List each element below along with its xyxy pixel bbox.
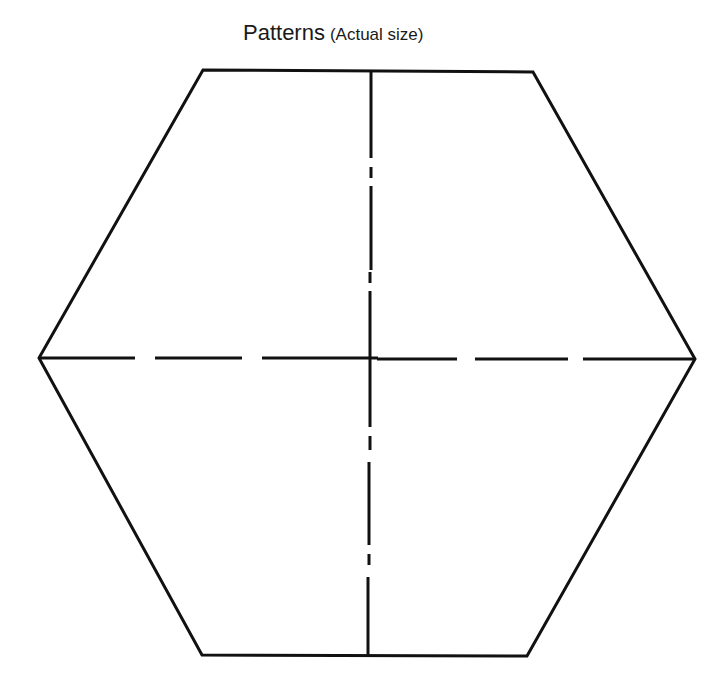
horizontal-fold-line	[39, 358, 695, 359]
hexagon-pattern	[0, 0, 728, 694]
hexagon-outline	[39, 70, 695, 656]
vertical-fold-line	[368, 70, 371, 655]
